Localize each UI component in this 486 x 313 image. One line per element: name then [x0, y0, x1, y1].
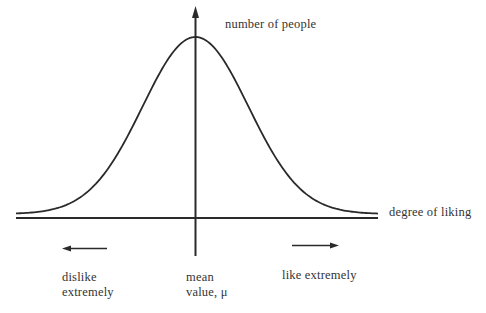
normal-distribution-curve	[16, 37, 378, 214]
like-extremely-label: like extremely	[282, 268, 357, 283]
bell-curve-diagram	[0, 0, 486, 313]
dislike-label-line-1: dislike	[62, 270, 114, 285]
right-arrow-icon	[330, 243, 339, 249]
mean-label-line-2: value, μ	[186, 285, 228, 300]
mean-value-label: mean value, μ	[186, 270, 228, 300]
left-arrow-icon	[62, 246, 71, 252]
dislike-extremely-label: dislike extremely	[62, 270, 114, 300]
dislike-label-line-2: extremely	[62, 285, 114, 300]
y-axis-label: number of people	[225, 17, 316, 32]
y-axis-arrowhead-icon	[192, 6, 199, 18]
mean-label-line-1: mean	[186, 270, 228, 285]
x-axis-label: degree of liking	[389, 205, 471, 220]
